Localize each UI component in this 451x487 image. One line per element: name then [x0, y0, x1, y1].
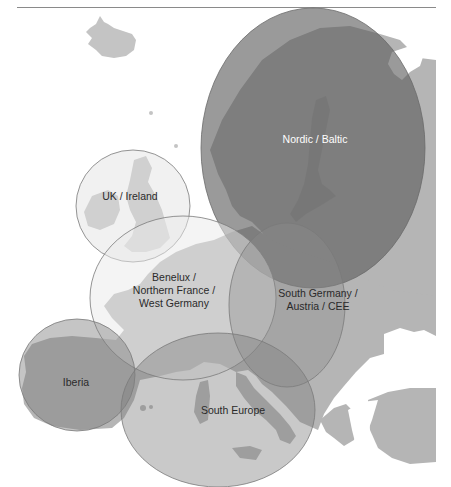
label-south-germany-line2: Austria / CEE: [286, 300, 349, 312]
label-benelux-line2: Northern France /: [133, 284, 215, 296]
region-iberia[interactable]: [19, 319, 135, 431]
label-benelux-line3: West Germany: [139, 297, 210, 309]
label-iberia: Iberia: [63, 376, 89, 388]
europe-region-map: Nordic / Baltic UK / Ireland Benelux / N…: [0, 0, 451, 487]
land-shetland: [174, 144, 178, 148]
land-faroe: [149, 111, 153, 115]
sea-black-sea: [380, 328, 436, 388]
land-iceland: [86, 16, 136, 58]
label-uk-ireland: UK / Ireland: [102, 190, 158, 202]
label-nordic-baltic: Nordic / Baltic: [283, 133, 348, 145]
land-turkey: [368, 388, 436, 464]
label-south-germany-line1: South Germany /: [278, 287, 357, 299]
label-south-europe: South Europe: [201, 404, 265, 416]
label-benelux-line1: Benelux /: [152, 271, 196, 283]
